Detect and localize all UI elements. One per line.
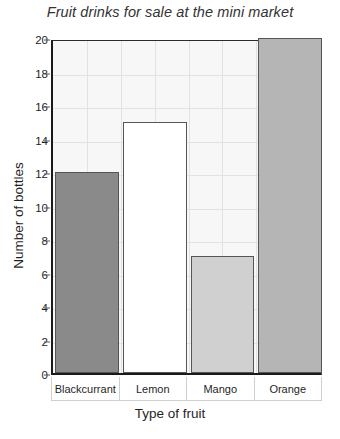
y-axis-tick-mark bbox=[44, 375, 50, 376]
y-axis-tick-mark bbox=[44, 274, 50, 275]
y-axis-tick-mark bbox=[44, 107, 50, 108]
plot-area bbox=[51, 40, 322, 375]
y-axis-tick-label: 4 bbox=[8, 302, 48, 314]
y-axis-tick-mark bbox=[44, 174, 50, 175]
y-axis-tick-mark bbox=[44, 73, 50, 74]
y-axis-tick-label: 14 bbox=[8, 135, 48, 147]
y-axis-tick-mark bbox=[44, 40, 50, 41]
y-axis-tick-label: 20 bbox=[8, 34, 48, 46]
y-axis-tick-label: 0 bbox=[8, 369, 48, 381]
y-axis-tick-mark bbox=[44, 207, 50, 208]
x-axis-tick-label: Lemon bbox=[120, 377, 188, 400]
bar-chart: Fruit drinks for sale at the mini market… bbox=[0, 0, 340, 439]
y-axis-tick-label: 16 bbox=[8, 101, 48, 113]
y-axis-tick-label: 2 bbox=[8, 336, 48, 348]
x-axis-tick-label: Mango bbox=[187, 377, 255, 400]
y-axis-tick-label: 10 bbox=[8, 202, 48, 214]
x-axis-category-band: BlackcurrantLemonMangoOrange bbox=[51, 377, 322, 401]
bar-lemon bbox=[123, 122, 187, 373]
y-axis-tick-label: 6 bbox=[8, 269, 48, 281]
bar-group bbox=[53, 41, 321, 373]
y-axis-tick-mark bbox=[44, 341, 50, 342]
y-axis-tick-label: 8 bbox=[8, 235, 48, 247]
x-axis-tick-label: Blackcurrant bbox=[52, 377, 120, 400]
x-axis-label: Type of fruit bbox=[0, 406, 340, 421]
bar-blackcurrant bbox=[55, 172, 119, 373]
y-axis-tick-label: 12 bbox=[8, 168, 48, 180]
chart-title: Fruit drinks for sale at the mini market bbox=[0, 4, 340, 20]
y-axis-tick-mark bbox=[44, 140, 50, 141]
y-axis-tick-mark bbox=[44, 308, 50, 309]
y-axis-tick-mark bbox=[44, 241, 50, 242]
y-axis-tick-label: 18 bbox=[8, 68, 48, 80]
bar-orange bbox=[258, 38, 322, 373]
bar-mango bbox=[191, 256, 255, 373]
x-axis-tick-label: Orange bbox=[255, 377, 322, 400]
